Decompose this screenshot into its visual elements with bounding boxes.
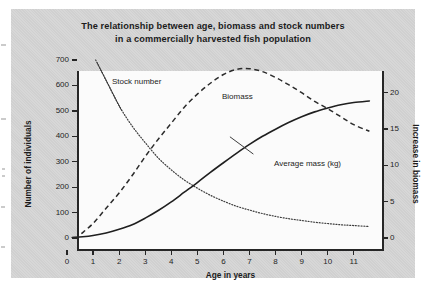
y-axis-left-tick	[72, 187, 77, 188]
y-axis-right-tick-label: 20	[390, 88, 416, 97]
x-axis-tick-label: 10	[318, 257, 338, 266]
scan-artifact	[1, 118, 6, 120]
y-axis-left-tick	[72, 237, 77, 238]
series-line-average-mass	[72, 101, 369, 238]
x-axis-tick-label: 5	[187, 257, 207, 266]
y-axis-right-tick-label: 0	[390, 233, 416, 242]
y-axis-left-tick-label: 0	[35, 233, 69, 242]
x-axis-tick	[353, 250, 354, 255]
y-axis-right-tick	[383, 165, 388, 166]
scan-artifact	[2, 175, 5, 177]
x-axis-tick-label: 6	[213, 257, 233, 266]
x-axis-tick	[223, 250, 224, 255]
scan-artifact	[1, 206, 5, 208]
y-axis-left-tick-label: 200	[35, 182, 69, 191]
y-axis-left-tick	[72, 136, 77, 137]
x-axis-tick	[301, 250, 302, 255]
x-axis-tick	[66, 250, 67, 255]
y-axis-left-tick-label: 100	[35, 208, 69, 217]
x-axis-line	[77, 249, 384, 251]
x-axis-tick-label: 3	[135, 257, 155, 266]
x-axis-tick-label: 4	[161, 257, 181, 266]
y-axis-left-line	[77, 71, 79, 250]
y-axis-right-tick	[383, 237, 388, 238]
x-axis-tick	[249, 250, 250, 255]
scanned-page: The relationship between age, biomass an…	[0, 0, 428, 292]
x-axis-tick	[275, 250, 276, 255]
y-axis-right-tick	[383, 201, 388, 202]
y-axis-right-title: Increase in biomass	[411, 104, 421, 224]
leader-line-average-mass	[230, 137, 253, 154]
y-axis-left-tick	[72, 85, 77, 86]
y-axis-right-tick	[383, 92, 388, 93]
x-axis-tick	[197, 250, 198, 255]
scan-artifact	[2, 168, 5, 170]
scan-artifact	[1, 44, 6, 46]
y-axis-left-tick-label: 700	[35, 55, 69, 64]
x-axis-tick	[327, 250, 328, 255]
y-axis-left-tick-label: 400	[35, 131, 69, 140]
y-axis-left-title: Number of individuals	[23, 104, 33, 224]
series-label-stock-number: Stock number	[112, 77, 161, 86]
x-axis-tick-label: 8	[266, 257, 286, 266]
y-axis-right-line	[382, 71, 384, 250]
x-axis-tick	[92, 250, 93, 255]
x-axis-tick-label: 1	[83, 257, 103, 266]
x-axis-tick-label: 9	[292, 257, 312, 266]
y-axis-left-tick	[72, 161, 77, 162]
x-axis-title: Age in years	[78, 270, 383, 280]
x-axis-tick-label: 7	[239, 257, 259, 266]
series-label-biomass: Biomass	[222, 92, 253, 101]
x-axis-tick	[171, 250, 172, 255]
x-axis-tick-label: 2	[109, 257, 129, 266]
series-label-average-mass: Average mass (kg)	[274, 159, 341, 168]
y-axis-left-tick	[72, 212, 77, 213]
y-axis-left-tick-label: 600	[35, 80, 69, 89]
y-axis-right-tick	[383, 128, 388, 129]
x-axis-tick	[145, 250, 146, 255]
figure-panel: The relationship between age, biomass an…	[11, 9, 415, 278]
x-axis-tick	[119, 250, 120, 255]
y-axis-left-tick-label: 500	[35, 106, 69, 115]
x-axis-tick-label: 0	[57, 257, 77, 266]
x-axis-tick-label: 11	[344, 257, 364, 266]
y-axis-left-tick	[72, 110, 77, 111]
y-axis-left-tick-label: 300	[35, 157, 69, 166]
y-axis-left-tick	[72, 59, 77, 60]
scan-artifact	[1, 246, 5, 248]
leader-line-stock-number	[97, 63, 122, 111]
